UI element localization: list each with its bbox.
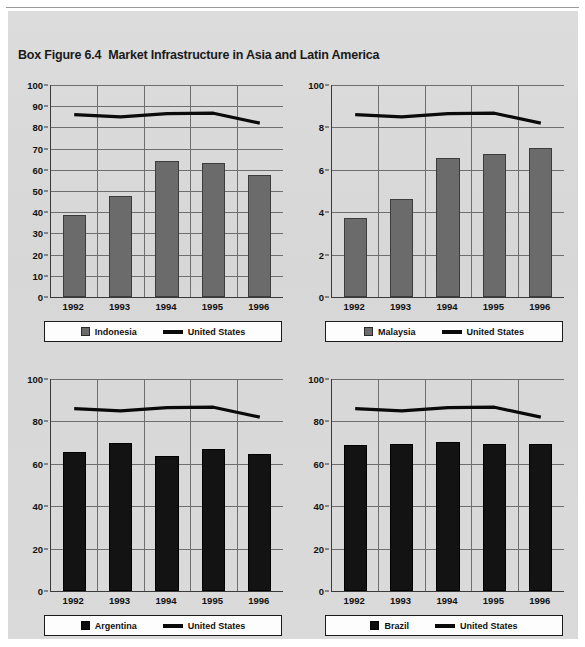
- legend-swatch-icon: [370, 621, 379, 630]
- legend-line-icon: [435, 624, 455, 628]
- y-axis-tick-label: 40: [313, 501, 324, 512]
- x-axis-tick-label: 1996: [529, 595, 550, 606]
- y-axis-tick-mark: [44, 463, 48, 464]
- legend-label-country: Brazil: [384, 621, 409, 631]
- plot-area: [331, 379, 564, 592]
- x-axis-tick-label: 1996: [529, 301, 550, 312]
- x-axis-tick-label: 1992: [344, 301, 365, 312]
- bar: [109, 443, 132, 591]
- bar: [390, 444, 413, 591]
- x-axis-tick-label: 1994: [436, 301, 457, 312]
- bar: [529, 148, 552, 297]
- y-axis-tick-label: 0: [319, 292, 324, 303]
- bar: [248, 175, 271, 297]
- y-axis-tick-mark: [44, 506, 48, 507]
- y-axis-tick-mark: [325, 506, 329, 507]
- y-axis-tick-mark: [44, 191, 48, 192]
- y-axis-tick-mark: [44, 169, 48, 170]
- y-axis-tick-label: 40: [32, 207, 43, 218]
- legend-entry-country: Malaysia: [364, 327, 416, 337]
- chart-malaysia: 0246810019921993199419951996MalaysiaUnit…: [295, 85, 570, 357]
- y-axis-tick-mark: [44, 106, 48, 107]
- bar-group: [51, 379, 283, 591]
- bar: [248, 454, 271, 591]
- legend-label-united-states: United States: [188, 621, 246, 631]
- bar: [63, 215, 86, 297]
- bar: [109, 196, 132, 297]
- plot-area: [50, 85, 283, 298]
- y-axis-tick-mark: [325, 212, 329, 213]
- y-axis-tick-label: 8: [319, 122, 324, 133]
- bar: [390, 199, 413, 297]
- legend-label-united-states: United States: [188, 327, 246, 337]
- chart-legend: MalaysiaUnited States: [325, 321, 563, 342]
- y-axis-tick-mark: [44, 548, 48, 549]
- x-axis-tick-label: 1996: [248, 595, 269, 606]
- legend-label-country: Argentina: [95, 621, 137, 631]
- y-axis-tick-label: 80: [313, 416, 324, 427]
- y-axis-tick-mark: [325, 421, 329, 422]
- x-axis-tick-label: 1995: [483, 595, 504, 606]
- bar-group: [51, 85, 283, 297]
- bar: [202, 449, 225, 591]
- chart-brazil: 02040608010019921993199419951996BrazilUn…: [295, 379, 570, 647]
- legend-line-icon: [163, 330, 183, 334]
- y-axis-tick-label: 80: [32, 416, 43, 427]
- x-axis-tick-label: 1992: [63, 301, 84, 312]
- y-axis-tick-mark: [44, 591, 48, 592]
- y-axis-tick-label: 90: [32, 101, 43, 112]
- y-axis-tick-mark: [44, 421, 48, 422]
- y-axis-tick-label: 60: [32, 164, 43, 175]
- y-axis-tick-mark: [325, 127, 329, 128]
- legend-label-country: Indonesia: [95, 327, 137, 337]
- y-axis-tick-mark: [325, 254, 329, 255]
- y-axis-tick-label: 4: [319, 207, 324, 218]
- y-axis-tick-mark: [44, 85, 48, 86]
- chart-argentina: 02040608010019921993199419951996Argentin…: [14, 379, 289, 647]
- plot-area: [50, 379, 283, 592]
- bar: [155, 456, 178, 591]
- bar: [344, 445, 367, 591]
- y-axis-tick-label: 0: [319, 586, 324, 597]
- y-axis-tick-label: 60: [313, 458, 324, 469]
- legend-label-united-states: United States: [460, 621, 518, 631]
- x-axis-tick-label: 1992: [344, 595, 365, 606]
- x-axis-tick-label: 1995: [202, 595, 223, 606]
- y-axis-tick-mark: [44, 148, 48, 149]
- bar-group: [332, 85, 564, 297]
- x-axis-labels: 19921993199419951996: [331, 593, 563, 611]
- legend-swatch-icon: [364, 327, 373, 336]
- y-axis-tick-label: 20: [32, 249, 43, 260]
- y-axis-labels: 020406080100: [14, 379, 48, 591]
- legend-swatch-icon: [81, 621, 90, 630]
- y-axis-tick-mark: [44, 379, 48, 380]
- x-axis-tick-label: 1993: [109, 595, 130, 606]
- plot-area-wrapper: 020406080100: [14, 379, 289, 601]
- legend-entry-united-states: United States: [163, 621, 246, 631]
- y-axis-tick-label: 6: [319, 164, 324, 175]
- plot-area: [331, 85, 564, 298]
- y-axis-tick-mark: [44, 233, 48, 234]
- x-axis-tick-label: 1995: [483, 301, 504, 312]
- y-axis-tick-label: 2: [319, 249, 324, 260]
- y-axis-tick-mark: [325, 297, 329, 298]
- bar: [436, 442, 459, 591]
- figure-title-text: Market Infrastructure in Asia and Latin …: [108, 48, 379, 62]
- y-axis-tick-mark: [44, 127, 48, 128]
- bar: [155, 161, 178, 297]
- legend-label-country: Malaysia: [378, 327, 416, 337]
- legend-line-icon: [442, 330, 462, 334]
- x-axis-tick-label: 1995: [202, 301, 223, 312]
- bar: [202, 163, 225, 297]
- x-axis-tick-label: 1993: [390, 595, 411, 606]
- y-axis-tick-label: 40: [32, 501, 43, 512]
- y-axis-labels: 020406080100: [295, 379, 329, 591]
- y-axis-tick-mark: [325, 548, 329, 549]
- x-axis-tick-label: 1992: [63, 595, 84, 606]
- x-axis-labels: 19921993199419951996: [50, 593, 282, 611]
- chart-indonesia: 0102030405060708090100199219931994199519…: [14, 85, 289, 357]
- y-axis-tick-label: 100: [308, 374, 324, 385]
- bar: [63, 452, 86, 591]
- x-axis-tick-label: 1994: [155, 301, 176, 312]
- page-title: Box Figure 6.4Market Infrastructure in A…: [18, 48, 379, 62]
